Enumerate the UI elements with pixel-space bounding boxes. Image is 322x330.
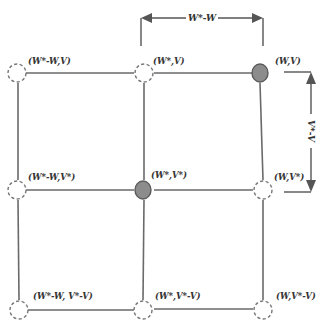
node-label-bot-left: (W*-W, V*-V) — [33, 291, 93, 302]
node-label-top-mid: (W*,V) — [153, 56, 185, 67]
edge-mid-mid-bot — [143, 200, 144, 300]
node-mid-mid — [135, 181, 151, 199]
arrow-right-icon — [252, 13, 263, 23]
node-bot-mid — [134, 301, 152, 319]
node-label-bot-right: (W,V*-V) — [276, 291, 316, 302]
arrow-down-icon — [306, 180, 316, 192]
node-mid-left — [8, 181, 26, 199]
grid-diagram: W*-W V*-V (W*-W,V) (W*,V) (W,V) (W*-W,V*… — [0, 0, 322, 330]
diagram-canvas: W*-W V*-V (W*-W,V) (W*,V) (W,V) (W*-W,V*… — [0, 0, 322, 330]
node-label-mid-left: (W*-W,V*) — [28, 172, 75, 183]
node-top-left — [8, 64, 26, 82]
node-label-bot-mid: (W*,V*-V) — [155, 291, 201, 302]
node-label-top-right: (W,V) — [275, 56, 301, 67]
node-label-mid-mid: (W*,V*) — [151, 170, 187, 181]
node-label-top-left: (W*-W,V) — [28, 56, 71, 67]
horizontal-dimension-label: W*-W — [188, 13, 217, 23]
node-top-mid — [135, 64, 153, 82]
arrow-left-icon — [141, 13, 152, 23]
vertical-dimension-label: V*-V — [306, 120, 316, 143]
node-top-right — [252, 64, 268, 82]
edge-right-top-mid — [260, 83, 263, 180]
node-bot-left — [10, 301, 28, 319]
node-label-mid-right: (W,V*) — [274, 172, 304, 183]
horizontal-dimension-arrow: W*-W — [141, 13, 263, 46]
arrow-up-icon — [306, 72, 316, 84]
edge-left-mid-bot — [18, 200, 19, 300]
node-mid-right — [254, 181, 272, 199]
node-bot-right — [254, 301, 272, 319]
